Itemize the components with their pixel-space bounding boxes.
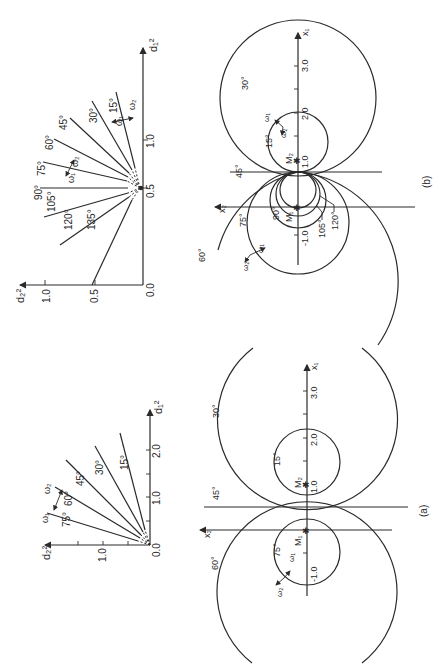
omega1-label: ω₁: [114, 116, 124, 126]
tick-label: 1.0: [309, 480, 319, 493]
omega2-label: ω₂: [70, 156, 80, 167]
tick-label: 3.0: [309, 386, 319, 399]
circle-60deg-b: [218, 172, 398, 345]
omega2-label: ω₂: [275, 588, 284, 597]
omega1-label: ω₁: [40, 513, 50, 523]
panel-label-b: (b): [421, 176, 432, 188]
angle-label: 15°: [264, 134, 274, 148]
point-m2-label-a: M₂: [293, 477, 303, 488]
ray-label: 45°: [58, 115, 69, 130]
svg-text:✱: ✱: [302, 526, 310, 536]
x1-axis-label-a: x₁: [309, 362, 319, 370]
d1-axis-label-b: d₁²: [147, 38, 159, 52]
tick-label: 0.5: [145, 184, 156, 198]
angle-label: 60°: [197, 248, 207, 262]
ray-label: 120°: [63, 209, 74, 230]
tick-label: 2.0: [300, 107, 310, 120]
angle-label: 105°: [317, 219, 327, 238]
ray-label: 75°: [36, 161, 47, 176]
angle-label: 75°: [272, 543, 282, 557]
point-m1-label-b: M₁: [284, 211, 294, 222]
tick-label: -1.0: [300, 230, 310, 246]
ray-label: 15°: [119, 455, 130, 470]
angle-label: 75°: [238, 213, 248, 227]
ray-label: 105°: [46, 191, 57, 212]
fan-chart-b: d₁² 0.5 1.0 0.0 0.5 1.0 d₂² 15° 30° 45° …: [14, 38, 159, 303]
angle-label: 30°: [240, 76, 250, 90]
ray-label: 30°: [88, 108, 99, 123]
svg-text:✱: ✱: [293, 203, 301, 213]
d2-axis-label-b: d₂²: [14, 289, 26, 303]
angle-label: 90°: [271, 206, 281, 220]
fan-chart-a: d₁² 1.0 2.0 0.0 1.0 d₂² 15° 30° 45° 60° …: [40, 400, 164, 562]
angle-label: 45°: [211, 486, 221, 500]
x1-axis-label-b: x₁: [300, 28, 310, 36]
ray-label: 135°: [86, 209, 97, 230]
origin-label-a: 0.0: [151, 543, 162, 557]
tick-label: 1.0: [41, 289, 52, 303]
omega1-label: ω₁: [262, 113, 271, 122]
omega2-label: ω₂: [241, 262, 250, 271]
d2-axis-label-a: d₂²: [40, 546, 52, 560]
ray-label: 30°: [94, 460, 105, 475]
tick-label: 2.0: [309, 433, 319, 446]
ray-label: 90°: [33, 185, 44, 200]
omega1-label: ω₁: [287, 553, 296, 562]
circle-diagram-b: ✱ ✱ x₁ x₂ 1.0 2.0 3.0 -1.0 M₁ M₂ 15° 30°…: [197, 20, 432, 345]
omega2-label: ω₂: [42, 483, 52, 494]
ray-label: 60°: [63, 491, 74, 506]
circle-diagram-a: ✱ ✱ x₁ x₂ 1.0 2.0 3.0 -1.0 M₁ M₂ 15° 30°…: [200, 348, 429, 663]
tick-label: 3.0: [300, 59, 310, 72]
omega2-label: ω₂: [279, 129, 288, 138]
tick-label: -1.0: [309, 566, 319, 582]
tick-label: 2.0: [151, 444, 162, 458]
ray-label: 75°: [61, 512, 72, 527]
angle-label: 120°: [330, 211, 340, 230]
origin-label-b: 0.0: [145, 283, 156, 297]
omega1-label: ω₁: [256, 244, 265, 253]
angle-label: 30°: [211, 404, 221, 418]
tick-label: 1.0: [97, 548, 108, 562]
x2-axis-label-b: x₂: [217, 205, 227, 214]
panel-label-a: (a): [418, 505, 429, 517]
figure-canvas: d₁² 0.5 1.0 0.0 0.5 1.0 d₂² 15° 30° 45° …: [0, 0, 440, 670]
angle-label: 15°: [272, 452, 282, 466]
tick-label: 1.0: [151, 491, 162, 505]
fan-rays-a: [47, 433, 150, 545]
angle-label: 60°: [210, 556, 220, 570]
ray-label: 15°: [108, 98, 119, 113]
ray-label: 60°: [44, 135, 55, 150]
tick-label: 1.0: [145, 134, 156, 148]
ray-label: 45°: [75, 471, 86, 486]
point-m2-label-b: M₂: [284, 153, 294, 164]
tick-label: 1.0: [300, 155, 310, 168]
d1-axis-label-a: d₁²: [152, 400, 164, 414]
point-m1-label-a: M₁: [293, 535, 303, 546]
angle-label: 45°: [234, 164, 244, 178]
x2-axis-label-a: x₂: [202, 530, 212, 539]
tick-label: 0.5: [89, 289, 100, 303]
omega2-label: ω₂: [127, 99, 137, 110]
omega1-label: ω₁: [66, 173, 76, 183]
